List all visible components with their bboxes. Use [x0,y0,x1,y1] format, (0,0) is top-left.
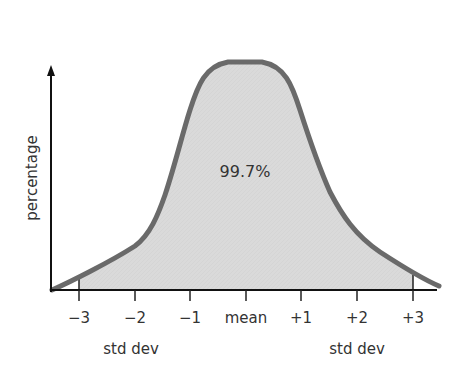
tick-label-mean: mean [225,309,268,327]
x-axis-label-right: std dev [329,340,385,358]
tick-label-minus1: −1 [179,309,201,327]
x-axis-ticks [79,290,413,301]
tick-label-plus2: +2 [346,309,368,327]
x-axis-label-left: std dev [103,340,159,358]
x-axis-tick-labels: −3 −2 −1 mean +1 +2 +3 [68,309,424,327]
tick-label-plus1: +1 [290,309,312,327]
area-percentage-label: 99.7% [220,162,271,181]
tick-label-plus3: +3 [402,309,424,327]
y-axis-label: percentage [23,135,41,220]
y-axis-arrow-icon [47,65,55,76]
normal-distribution-chart: −3 −2 −1 mean +1 +2 +3 std dev std dev p… [0,0,473,387]
tick-label-minus3: −3 [68,309,90,327]
tick-label-minus2: −2 [124,309,146,327]
